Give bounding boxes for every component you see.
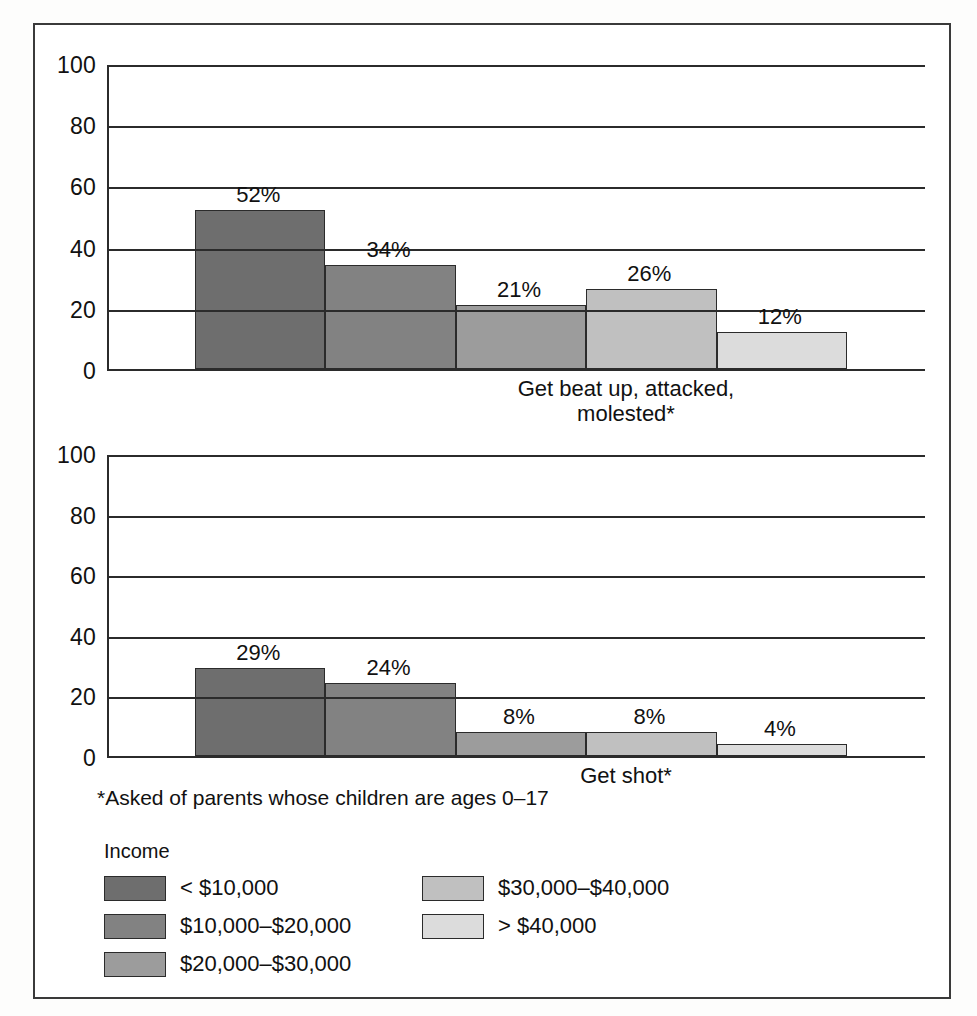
- y-axis-tick-label: 100: [57, 442, 96, 469]
- legend-item-label: $20,000–$30,000: [180, 951, 351, 977]
- y-axis-tick-label: 60: [70, 563, 96, 590]
- gridline: [107, 249, 925, 251]
- chart-get-beat-up: 020406080100 52%34%21%26%12% Get beat up…: [107, 65, 925, 371]
- gridline: [107, 576, 925, 578]
- bar: [717, 332, 847, 369]
- legend-item-label: $10,000–$20,000: [180, 913, 351, 939]
- bar: [456, 305, 586, 369]
- legend-swatch: [422, 914, 484, 939]
- bar-value-label: 26%: [627, 261, 671, 287]
- y-axis-tick-label: 60: [70, 174, 96, 201]
- legend-item[interactable]: > $40,000: [422, 907, 669, 945]
- gridline: [107, 65, 925, 67]
- gridline: [107, 455, 925, 457]
- bar-value-label: 8%: [633, 704, 665, 730]
- y-axis-tick-label: 40: [70, 623, 96, 650]
- gridline: [107, 697, 925, 699]
- bar-value-label: 12%: [758, 304, 802, 330]
- legend-item[interactable]: $10,000–$20,000: [104, 907, 351, 945]
- y-axis-tick-label: 100: [57, 52, 96, 79]
- legend-swatch: [104, 952, 166, 977]
- legend-swatch: [104, 876, 166, 901]
- bar: [456, 732, 586, 756]
- bar: [195, 210, 325, 369]
- y-axis-tick-label: 80: [70, 502, 96, 529]
- y-axis-tick-label: 80: [70, 113, 96, 140]
- legend-column-left: < $10,000$10,000–$20,000$20,000–$30,000: [104, 869, 351, 983]
- legend-swatch: [422, 876, 484, 901]
- legend-columns: < $10,000$10,000–$20,000$20,000–$30,000 …: [104, 869, 824, 993]
- legend-item[interactable]: $20,000–$30,000: [104, 945, 351, 983]
- bar-value-label: 21%: [497, 277, 541, 303]
- bar-value-label: 34%: [367, 237, 411, 263]
- y-axis-tick-label: 20: [70, 296, 96, 323]
- y-axis-tick-label: 0: [83, 358, 96, 385]
- bar-value-label: 29%: [236, 640, 280, 666]
- figure-page: 020406080100 52%34%21%26%12% Get beat up…: [0, 0, 977, 1016]
- y-axis-tick-label: 40: [70, 235, 96, 262]
- gridline: [107, 637, 925, 639]
- plot-area-1: [107, 65, 925, 371]
- bar-value-label: 8%: [503, 704, 535, 730]
- y-axis-tick-label: 0: [83, 745, 96, 772]
- gridline: [107, 126, 925, 128]
- legend-title: Income: [104, 840, 824, 863]
- bar: [717, 744, 847, 756]
- gridline: [107, 187, 925, 189]
- bar: [586, 732, 716, 756]
- legend-column-right: $30,000–$40,000> $40,000: [422, 869, 669, 945]
- bar: [586, 289, 716, 369]
- bar: [325, 265, 455, 369]
- bar-value-label: 24%: [367, 655, 411, 681]
- bar: [325, 683, 455, 756]
- legend-item-label: < $10,000: [180, 875, 278, 901]
- legend-item-label: > $40,000: [498, 913, 596, 939]
- bars-layer-1: [109, 67, 925, 369]
- bar-value-label: 4%: [764, 716, 796, 742]
- bar-value-label: 52%: [236, 182, 280, 208]
- legend-item[interactable]: < $10,000: [104, 869, 351, 907]
- legend-item-label: $30,000–$40,000: [498, 875, 669, 901]
- y-axis-tick-label: 20: [70, 684, 96, 711]
- legend-item[interactable]: $30,000–$40,000: [422, 869, 669, 907]
- legend: Income < $10,000$10,000–$20,000$20,000–$…: [104, 840, 824, 993]
- gridline: [107, 310, 925, 312]
- chart-get-shot: 020406080100 29%24%8%8%4% Get shot*: [107, 455, 925, 758]
- x-axis-caption-1: Get beat up, attacked, molested*: [300, 377, 952, 426]
- gridline: [107, 516, 925, 518]
- bar: [195, 668, 325, 756]
- legend-swatch: [104, 914, 166, 939]
- x-axis-caption-2: Get shot*: [300, 764, 952, 789]
- footnote: *Asked of parents whose children are age…: [97, 786, 549, 810]
